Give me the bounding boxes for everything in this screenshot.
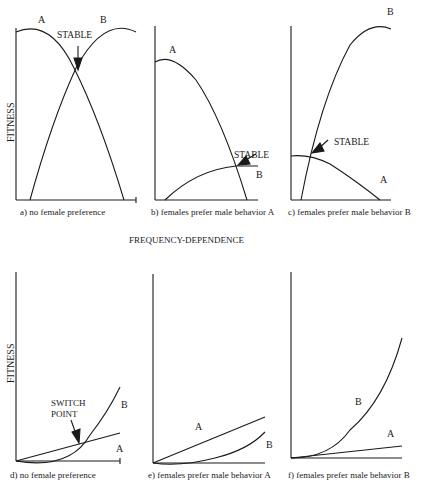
label-b: B <box>387 6 394 17</box>
y-axis-label-top: FITNESS <box>5 103 16 142</box>
panel-a <box>16 28 136 203</box>
panel-c <box>291 26 391 200</box>
curve-b <box>153 432 265 464</box>
curve-a <box>153 417 265 463</box>
label-a: A <box>380 174 388 185</box>
caption-e: e) females prefer male behavior A <box>148 470 271 480</box>
label-a: A <box>387 428 395 439</box>
curve-a <box>16 29 124 200</box>
caption-b: b) females prefer male behavior A <box>151 207 275 217</box>
label-a: A <box>195 421 203 432</box>
label-b: B <box>100 14 107 25</box>
annotation-stable: STABLE <box>57 30 92 40</box>
caption-c: c) females prefer male behavior B <box>288 207 411 217</box>
curve-b <box>165 166 258 200</box>
caption-f: f) females prefer male behavior B <box>288 470 410 480</box>
annotation-stable: STABLE <box>234 150 269 160</box>
figure: A B STABLE a) no female preference FITNE… <box>0 0 427 498</box>
curve-a <box>291 156 380 200</box>
label-a: A <box>38 14 46 25</box>
panel-d <box>16 272 120 464</box>
label-a: A <box>116 443 124 454</box>
curve-b <box>30 28 136 200</box>
curve-b <box>291 338 402 458</box>
label-b: B <box>121 399 128 410</box>
caption-d: d) no female preference <box>10 470 96 480</box>
label-b: B <box>355 396 362 407</box>
label-a: A <box>169 44 177 55</box>
label-b: B <box>266 439 273 450</box>
curve-a <box>155 59 247 200</box>
annotation-switch: SWITCH <box>51 398 86 408</box>
row-label-frequency-dependence: FREQUENCY-DEPENDENCE <box>129 235 245 245</box>
label-b: B <box>256 169 263 180</box>
panel-f <box>291 272 402 458</box>
panel-e <box>153 274 265 464</box>
y-axis-label-bottom: FITNESS <box>5 344 16 383</box>
annotation-point: POINT <box>51 409 78 419</box>
annotation-stable: STABLE <box>334 137 369 147</box>
caption-a: a) no female preference <box>20 207 105 217</box>
